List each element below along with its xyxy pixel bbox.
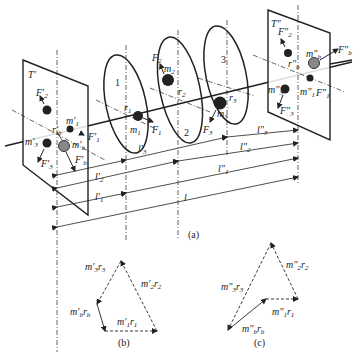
dim-label-l3-double: l″3 xyxy=(257,124,268,137)
radius-label-r3: r3 xyxy=(229,92,237,105)
caption-a: (a) xyxy=(188,229,199,241)
disc-number-3: 3 xyxy=(221,54,226,65)
force-label-F2: F2 xyxy=(151,52,162,65)
force-label-F1-prime: F′1 xyxy=(87,131,100,144)
vector-label-c-m3r3: m″3r3 xyxy=(221,281,244,294)
dim-label-l2-prime: l′2 xyxy=(95,171,104,184)
panel-a: T′ F′2 m′1 F′1 m′3 F′3 m′b F′b r′b 1 xyxy=(5,5,352,352)
balancing-diagram: T′ F′2 m′1 F′1 m′3 F′3 m′b F′b r′b 1 xyxy=(0,0,364,352)
mass-m3-prime xyxy=(43,139,52,148)
force-label-Fb-double: F″b xyxy=(337,44,352,57)
radius-label-r2: r2 xyxy=(178,86,186,99)
mass-label-m3: m3 xyxy=(217,108,228,121)
mass-label-m1: m1 xyxy=(130,124,141,137)
caption-b: (b) xyxy=(118,337,130,349)
mass-m2-double xyxy=(284,49,292,57)
vector-label-c-m2r2: m″2r2 xyxy=(286,259,309,272)
vector-label-c-m1r1: m″1r1 xyxy=(272,306,294,319)
vector-label-b-m2r2: m′2r2 xyxy=(141,278,162,291)
force-label-F1: F1 xyxy=(151,124,162,137)
dim-label-l1-prime: l′1 xyxy=(95,191,103,204)
caption-c: (c) xyxy=(254,337,265,349)
mass-m1 xyxy=(133,111,143,121)
mass-m1-double xyxy=(307,75,314,82)
vector-label-c-mbrb: m″brb xyxy=(242,323,265,336)
plane-label-t1: T′ xyxy=(28,69,37,80)
mass-mb-prime xyxy=(59,141,70,152)
mass-label-m2: m2 xyxy=(164,63,175,76)
radius-label-r1: r1 xyxy=(124,102,131,115)
dim-label-l: l xyxy=(184,192,187,203)
disc-number-2: 2 xyxy=(184,127,189,138)
disc-1: 1 m1 r1 F1 xyxy=(96,45,162,240)
right-correction-plane: T″ F″2 r″b m″b F″b m″1 F″1 m″3 F″3 xyxy=(253,5,352,185)
left-correction-plane: T′ F′2 m′1 F′1 m′3 F′3 m′b F′b r′b xyxy=(12,50,105,352)
dim-label-l2-double: l″2 xyxy=(240,141,251,154)
force-label-F3: F3 xyxy=(202,124,213,137)
dimension-lines xyxy=(57,130,298,227)
mass-m1-prime xyxy=(67,126,74,133)
vector-label-b-m1r1: m′1r1 xyxy=(117,316,137,329)
mass-m2-prime xyxy=(43,106,52,115)
disc-number-1: 1 xyxy=(115,77,120,88)
dim-label-l3-prime: l′3 xyxy=(138,143,147,156)
vector-label-b-m3r3: m′3r3 xyxy=(85,261,106,274)
vector-label-b-mbrb: m′brb xyxy=(70,306,91,319)
